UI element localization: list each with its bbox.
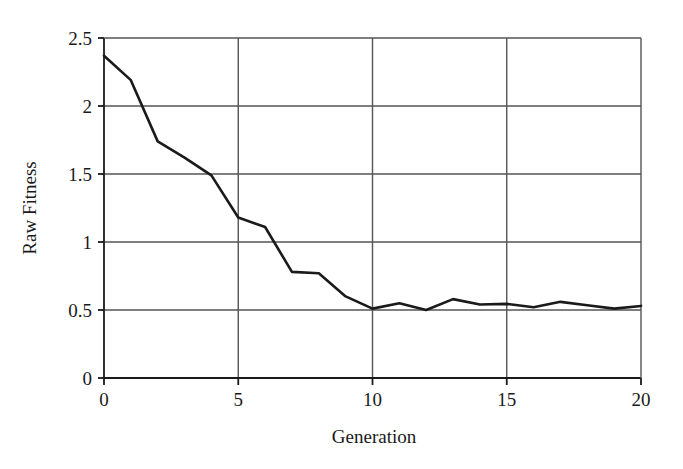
x-tick-label: 20 [632, 389, 651, 410]
y-tick-label: 2 [83, 96, 93, 117]
y-tick-label: 2.5 [68, 28, 92, 49]
x-axis-title: Generation [332, 426, 417, 447]
y-tick-label: 0.5 [68, 300, 92, 321]
y-tick-label: 1.5 [68, 164, 92, 185]
figure-container: 00.511.522.5 05101520 Generation Raw Fit… [0, 0, 683, 469]
y-tick-label: 0 [83, 368, 93, 389]
line-chart: 00.511.522.5 05101520 Generation Raw Fit… [0, 0, 683, 469]
x-tick-label: 0 [99, 389, 109, 410]
y-tick-label: 1 [83, 232, 93, 253]
x-tick-label: 15 [497, 389, 516, 410]
x-tick-label: 5 [234, 389, 244, 410]
y-axis-title: Raw Fitness [19, 161, 40, 254]
x-tick-label: 10 [363, 389, 382, 410]
